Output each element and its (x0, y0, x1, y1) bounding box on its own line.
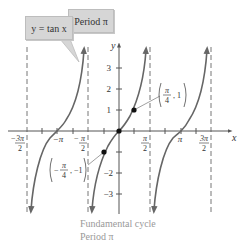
tan-branch-left (31, 50, 84, 210)
y-tick-label-neg2: −2 (103, 168, 113, 178)
x-tick-label-neg-pi: −π (53, 134, 64, 144)
period-box-text: Period π (74, 16, 108, 27)
svg-text:−: − (54, 166, 59, 175)
point-origin (116, 128, 121, 133)
svg-text:3π: 3π (15, 134, 25, 143)
point-label-pi-4: π 4 , 1 (159, 83, 186, 107)
caption-period: Period π (80, 231, 114, 242)
svg-text:−: − (74, 134, 79, 143)
svg-text:3π: 3π (199, 134, 209, 143)
svg-text:, 1: , 1 (173, 91, 181, 100)
x-tick-label-pi: π (178, 134, 183, 144)
svg-text:2: 2 (18, 144, 22, 153)
function-box: y = tan x (25, 16, 73, 40)
x-tick-label-pi-2: π 2 (141, 134, 149, 153)
svg-text:π: π (143, 134, 148, 143)
x-tick-label-neg-pi-2: − π 2 (74, 134, 87, 153)
svg-text:2: 2 (143, 144, 147, 153)
y-tick-label-2: 2 (107, 84, 112, 94)
callout-tail (60, 39, 79, 62)
svg-text:π: π (165, 86, 170, 95)
y-tick-label-3: 3 (107, 63, 112, 73)
x-tick-label-neg-3pi-2: − 3π 2 (11, 134, 25, 153)
point-neg-pi-4 (101, 149, 106, 154)
svg-text:π: π (81, 134, 86, 143)
x-axis-label: x (231, 132, 237, 143)
y-tick-label-neg3: −3 (103, 189, 113, 199)
point-label-neg-pi-4: − π 4 , −1 (50, 158, 86, 182)
svg-text:2: 2 (81, 144, 85, 153)
x-tick-label-3pi-2: 3π 2 (199, 134, 209, 153)
point-pi-4 (131, 107, 136, 112)
caption-fundamental-cycle: Fundamental cycle (80, 218, 156, 229)
svg-text:4: 4 (62, 171, 66, 180)
function-box-text: y = tan x (31, 23, 66, 34)
y-axis-label: y (110, 40, 116, 51)
period-box: Period π (68, 9, 114, 33)
svg-text:, −1: , −1 (70, 166, 83, 175)
y-tick-label-1: 1 (107, 105, 112, 115)
svg-text:2: 2 (202, 144, 206, 153)
svg-text:4: 4 (165, 96, 169, 105)
svg-text:π: π (62, 161, 67, 170)
